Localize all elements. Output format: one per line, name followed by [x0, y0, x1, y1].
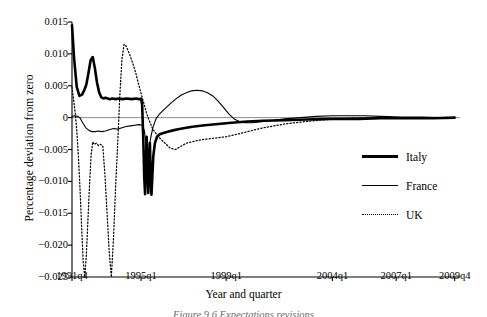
x-tick-label: 1995q1 [125, 270, 157, 281]
legend-line-swatch [362, 185, 398, 190]
legend-line-swatch [362, 155, 398, 162]
x-tick-label: 1991q4 [56, 270, 88, 281]
legend-item-uk[interactable]: UK [362, 208, 482, 222]
y-tick-label: 0.015 [22, 17, 68, 27]
y-tick-label: −0.015 [22, 208, 68, 218]
figure-container: Percentage deviation from zero Year and … [0, 0, 487, 317]
x-tick-label: 2007q1 [380, 270, 412, 281]
legend-label: UK [406, 208, 423, 222]
y-tick-label: 0.010 [22, 49, 68, 59]
y-tick-label: 0.005 [22, 81, 68, 91]
y-tick-label: 0 [22, 113, 68, 123]
x-tick-label: 2009q4 [439, 270, 471, 281]
chart-legend: ItalyFranceUK [362, 150, 482, 222]
y-tick-label: −0.010 [22, 176, 68, 186]
y-tick-label: −0.020 [22, 240, 68, 250]
legend-label: France [406, 179, 437, 193]
legend-label: Italy [406, 150, 427, 164]
x-axis-tick-labels: 1991q41995q11999q12004q12007q12009q4 [0, 270, 487, 284]
y-tick-label: −0.005 [22, 145, 68, 155]
legend-item-italy[interactable]: Italy [362, 150, 482, 164]
x-tick-label: 1999q1 [210, 270, 242, 281]
x-tick-label: 2004q1 [317, 270, 349, 281]
legend-line-swatch [362, 214, 398, 219]
legend-item-france[interactable]: France [362, 179, 482, 193]
figure-caption: Figure 9.6 Expectations revisions [0, 309, 487, 317]
